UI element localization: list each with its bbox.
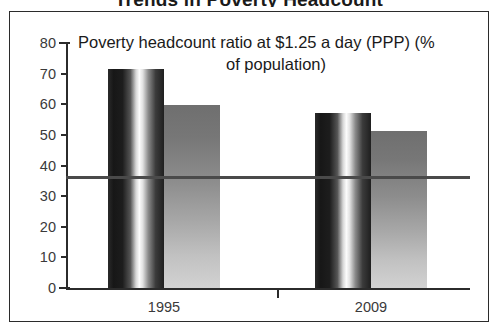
x-axis-group-divider-tick [277,289,279,298]
chart-title: Poverty headcount ratio at $1.25 a day (… [76,32,476,76]
bar-2009-series-1 [315,113,371,288]
y-axis-labels: 01020304050607080 [24,12,56,323]
bar-1995-series-2 [164,105,220,288]
y-axis-tick [59,287,70,289]
y-axis-tick [61,165,68,167]
chart-title-line-2: of population) [76,54,476,76]
y-axis-tick [59,42,70,44]
x-axis-label-2009: 2009 [331,299,411,315]
reference-line [66,176,470,179]
y-axis-tick [61,226,68,228]
chart-frame: 01020304050607080 19952009 Poverty headc… [9,11,489,322]
y-axis-tick-label: 70 [30,66,56,82]
y-axis-tick-label: 20 [30,219,56,235]
y-axis-tick [61,103,68,105]
y-axis-tick [61,256,68,258]
chart-screenshot: Trends in Poverty Headcount 010203040506… [0,0,498,331]
x-axis-line [66,288,470,290]
y-axis-tick [61,195,68,197]
clipped-page-title: Trends in Poverty Headcount [0,0,498,7]
y-axis-tick-label: 10 [30,249,56,265]
chart-title-line-1: Poverty headcount ratio at $1.25 a day (… [76,32,476,54]
y-axis-tick-label: 30 [30,188,56,204]
y-axis-tick [61,134,68,136]
y-axis-tick-label: 0 [30,280,56,296]
y-axis-tick-label: 40 [30,158,56,174]
x-axis-label-1995: 1995 [124,299,204,315]
plot-area: 01020304050607080 19952009 Poverty headc… [10,12,490,323]
y-axis-tick [61,73,68,75]
y-axis-tick-label: 60 [30,96,56,112]
bar-2009-series-2 [371,131,427,288]
y-axis-tick-label: 80 [30,35,56,51]
y-axis-tick-label: 50 [30,127,56,143]
